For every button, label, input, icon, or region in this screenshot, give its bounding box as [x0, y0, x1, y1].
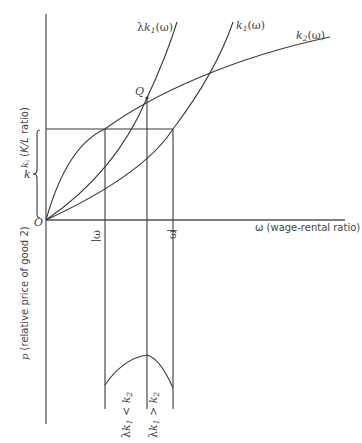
factor-intensity-diagram: Q O k λk1(ω) k1(ω) k2(ω) ω ω ω (wage-ren…	[0, 0, 362, 443]
point-q-label: Q	[135, 85, 144, 98]
x-axis-label: ω (wage-rental ratio)	[255, 222, 360, 233]
omega-lower-label: ω	[90, 230, 103, 241]
region-label-lambda-k1-less-k2: λk1 < k2	[120, 392, 134, 438]
svg-text:k1(ω): k1(ω)	[236, 19, 265, 33]
curve-lambda-k1	[46, 22, 177, 220]
price-curve	[105, 355, 173, 388]
svg-text:ω: ω	[90, 230, 103, 239]
y-axis-label-top: ki (K/L ratio)	[19, 107, 32, 168]
svg-text:p (relative price of good 2): p (relative price of good 2)	[19, 226, 30, 360]
curve-k1	[46, 22, 233, 220]
k-bracket	[33, 130, 40, 218]
svg-text:k2(ω): k2(ω)	[296, 29, 325, 43]
svg-text:λk1 > k2: λk1 > k2	[147, 392, 161, 438]
svg-text:λk1(ω): λk1(ω)	[137, 21, 173, 35]
svg-text:ω: ω	[166, 230, 179, 239]
region-label-lambda-k1-greater-k2: λk1 > k2	[147, 392, 161, 438]
label-k2: k2(ω)	[296, 29, 325, 43]
point-q	[145, 96, 148, 99]
omega-upper-label: ω	[166, 230, 179, 239]
label-lambda-k1: λk1(ω)	[137, 21, 173, 35]
svg-text:λk1 < k2: λk1 < k2	[120, 392, 134, 438]
svg-text:ki (K/L ratio): ki (K/L ratio)	[19, 107, 32, 168]
y-axis-label-bottom: p (relative price of good 2)	[19, 226, 30, 360]
k-bracket-label: k	[24, 168, 31, 181]
label-k1: k1(ω)	[236, 19, 265, 33]
